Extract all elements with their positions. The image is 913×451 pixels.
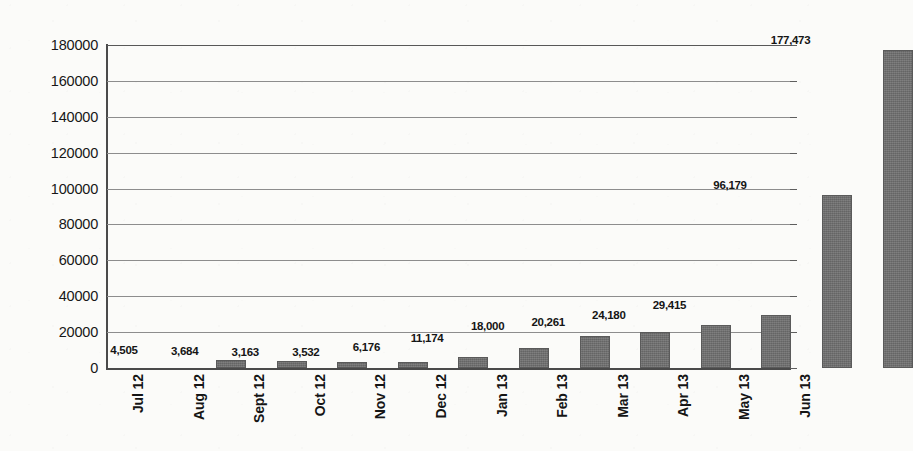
x-axis-tick-label: Nov 12	[372, 374, 388, 451]
x-axis-tick-label: Dec 12	[433, 374, 449, 451]
bar	[883, 50, 913, 368]
x-axis-tick-label: Mar 13	[615, 374, 631, 451]
x-axis-tick-label: Apr 13	[675, 374, 691, 451]
x-axis-tick-label: Jan 13	[494, 374, 510, 451]
x-axis-tick-label: May 13	[736, 374, 752, 451]
x-axis-tick-label: Sept 12	[251, 374, 267, 451]
x-axis-tick-label: Feb 13	[554, 374, 570, 451]
x-axis-tick-label: Aug 12	[191, 374, 207, 451]
x-axis-tick-label: Jul 12	[130, 374, 146, 451]
x-axis-tick-label: Oct 12	[312, 374, 328, 451]
x-axis-tick-label: Jun 13	[797, 374, 813, 451]
